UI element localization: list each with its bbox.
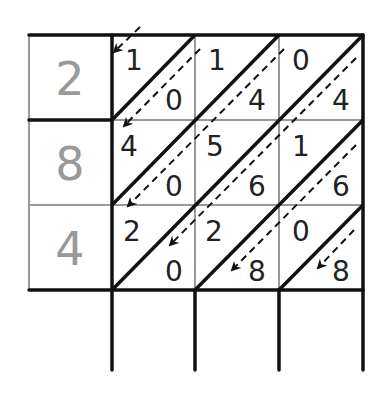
multiplier-digit: 8 (55, 137, 84, 191)
cell-tens: 0 (292, 44, 310, 77)
cell-ones: 4 (332, 84, 350, 117)
cell-ones: 6 (332, 170, 350, 203)
cell-tens: 1 (125, 44, 143, 77)
cell-tens: 1 (292, 130, 310, 163)
dashed-arrows (114, 27, 356, 270)
cell-ones: 0 (165, 84, 183, 117)
cell-tens: 4 (120, 130, 138, 163)
cell-tens: 5 (206, 130, 224, 163)
cell-tens: 0 (292, 215, 310, 248)
cell-ones: 8 (248, 255, 266, 288)
cell-tens: 2 (205, 215, 223, 248)
diagonals (112, 35, 363, 290)
multiplier-digits: 2 8 4 (55, 52, 84, 276)
multiplier-digit: 4 (55, 222, 84, 276)
cell-ones: 0 (165, 170, 183, 203)
cell-ones: 6 (248, 170, 266, 203)
cell-ones: 4 (248, 84, 266, 117)
cell-ones: 0 (165, 255, 183, 288)
lattice-diagram: 2 8 4 1 0 1 4 0 4 4 0 5 6 1 6 2 0 2 8 0 … (0, 0, 388, 397)
cell-tens: 1 (208, 44, 226, 77)
cell-tens: 2 (123, 215, 141, 248)
cell-ones: 8 (332, 255, 350, 288)
multiplier-digit: 2 (55, 52, 84, 106)
